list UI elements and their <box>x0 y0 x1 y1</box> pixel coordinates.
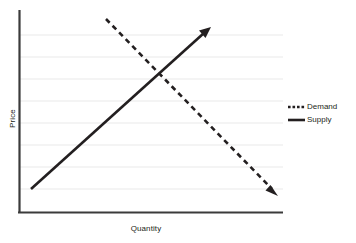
chart-legend: Demand Supply <box>288 100 356 126</box>
gridlines <box>19 35 283 189</box>
legend-label-demand: Demand <box>306 101 337 112</box>
legend-item-supply: Supply <box>288 113 356 126</box>
x-axis-label: Quantity <box>0 224 292 233</box>
axes <box>18 10 283 213</box>
supply-line-swatch-icon <box>288 115 306 125</box>
supply-demand-chart: Price Quantity Demand Supply <box>0 0 356 243</box>
demand-line-swatch-icon <box>288 102 306 112</box>
supply-curve <box>31 27 211 189</box>
legend-item-demand: Demand <box>288 100 356 113</box>
demand-line <box>106 19 272 189</box>
y-axis-label: Price <box>8 99 17 139</box>
demand-arrowhead <box>266 185 279 196</box>
legend-label-supply: Supply <box>306 114 331 125</box>
